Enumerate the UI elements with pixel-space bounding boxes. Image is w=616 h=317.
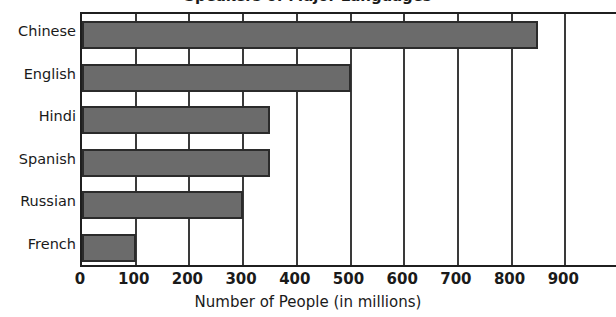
gridline-900 [564,14,566,265]
x-tick-900: 900 [548,270,579,288]
bar-french [82,234,136,262]
bar-hindi [82,106,270,134]
x-tick-800: 800 [494,270,525,288]
plot-area [80,12,616,267]
x-tick-100: 100 [118,270,149,288]
bar-fill [82,191,243,219]
gridline-500 [350,14,352,265]
gridline-800 [511,14,513,265]
bar-chinese [82,21,538,49]
bar-fill [82,64,351,92]
x-tick-600: 600 [387,270,418,288]
bar-english [82,64,351,92]
y-axis-label-hindi: Hindi [2,108,76,124]
gridline-300 [242,14,244,265]
gridline-400 [296,14,298,265]
gridline-200 [188,14,190,265]
bar-russian [82,191,243,219]
gridline-700 [457,14,459,265]
gridline-100 [135,14,137,265]
bar-spanish [82,149,270,177]
bar-chart: Speakers of Major Languages ChineseEngli… [0,0,616,317]
y-axis-label-english: English [2,66,76,82]
y-axis-label-french: French [2,236,76,252]
chart-title: Speakers of Major Languages [0,0,616,5]
x-tick-300: 300 [225,270,256,288]
x-axis-tick-labels: 0100200300400500600700800900 [80,270,616,292]
bar-fill [82,234,136,262]
y-axis-label-chinese: Chinese [2,23,76,39]
x-tick-200: 200 [172,270,203,288]
y-axis-labels: ChineseEnglishHindiSpanishRussianFrench [0,12,76,267]
gridline-0 [80,14,82,265]
x-tick-500: 500 [333,270,364,288]
bar-fill [82,149,270,177]
gridline-600 [403,14,405,265]
x-axis-title: Number of People (in millions) [0,293,616,311]
y-axis-label-spanish: Spanish [2,151,76,167]
x-tick-0: 0 [75,270,85,288]
bar-fill [82,106,270,134]
x-tick-700: 700 [440,270,471,288]
y-axis-label-russian: Russian [2,193,76,209]
bar-fill [82,21,538,49]
x-tick-400: 400 [279,270,310,288]
